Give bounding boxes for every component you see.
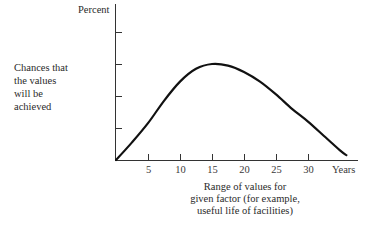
caption-line-3: useful life of facilities)	[150, 205, 340, 217]
y-ticks	[115, 33, 122, 129]
caption-line-1: Range of values for	[150, 181, 340, 193]
x-axis-caption: Range of values for given factor (for ex…	[150, 181, 340, 217]
x-tick-label: 15	[207, 164, 218, 175]
x-ticks: 51015202530	[146, 154, 314, 175]
x-tick-label: 10	[175, 164, 186, 175]
x-tick-label: 20	[239, 164, 250, 175]
x-axis-unit-label: Years	[332, 164, 355, 175]
x-tick-label: 5	[146, 164, 151, 175]
x-tick-label: 25	[271, 164, 282, 175]
probability-curve	[116, 64, 346, 160]
caption-line-2: given factor (for example,	[150, 193, 340, 205]
x-tick-label: 30	[303, 164, 314, 175]
